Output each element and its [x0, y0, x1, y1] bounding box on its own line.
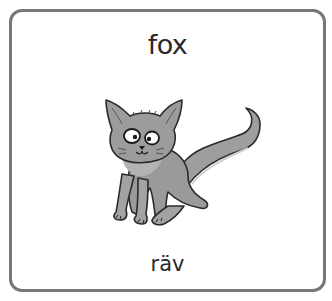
- flashcard: fox räv: [9, 9, 326, 292]
- fox-illustration: [92, 88, 272, 228]
- english-word: fox: [12, 29, 323, 61]
- swedish-word: räv: [12, 251, 323, 277]
- fox-eye-left: [124, 129, 140, 143]
